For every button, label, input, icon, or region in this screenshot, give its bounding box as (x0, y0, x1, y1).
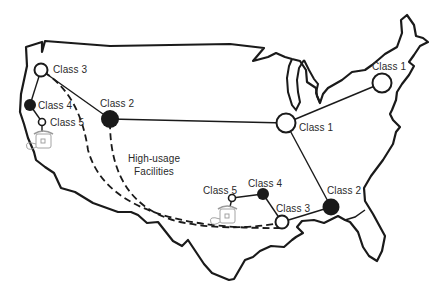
node-west-class4 (24, 99, 36, 111)
label-se-class2: Class 2 (327, 185, 361, 196)
node-se-class2 (323, 199, 340, 216)
annotation-line2: Facilities (122, 166, 186, 177)
label-ne-class1: Class 1 (372, 61, 406, 72)
annotation-line1: High-usage (122, 153, 186, 164)
node-central-class1 (277, 114, 296, 133)
node-west-class2 (101, 110, 119, 128)
telephone-icon-west (26, 131, 53, 149)
label-south-class5: Class 5 (203, 185, 237, 196)
label-south-class3: Class 3 (276, 203, 310, 214)
us-outline (20, 15, 428, 280)
node-west-class5 (39, 119, 46, 126)
telephone-icon-south (210, 206, 237, 224)
label-west-class5: Class 5 (50, 117, 84, 128)
node-south-class4 (257, 188, 269, 200)
label-west-class2: Class 2 (100, 98, 134, 109)
node-ne-class1 (373, 74, 392, 93)
us-network-map (0, 0, 442, 296)
lake-michigan (287, 59, 304, 110)
node-south-class3 (276, 216, 289, 229)
label-south-class4: Class 4 (248, 178, 282, 189)
florida-coast (345, 210, 365, 220)
label-west-class4: Class 4 (38, 100, 72, 111)
label-west-class3: Class 3 (53, 64, 87, 75)
high-usage-trunk-1 (44, 72, 280, 228)
high-usage-annotation: High-usage Facilities (122, 153, 186, 177)
label-central-class1: Class 1 (299, 122, 333, 133)
node-west-class3 (35, 64, 48, 77)
